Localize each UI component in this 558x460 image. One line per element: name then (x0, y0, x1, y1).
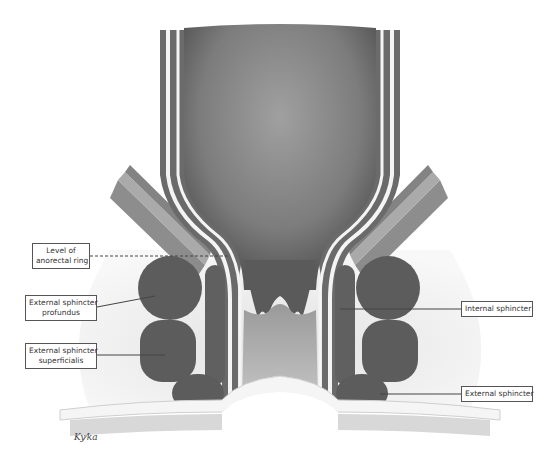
ext-profundus-right (356, 256, 420, 320)
artist-signature: Ky⁄ka (73, 432, 98, 442)
label-ext-sphincter-superficialis: External sphincter superficialis (25, 343, 97, 369)
label-ext-sphincter-profundus: External sphincter profundus (25, 295, 97, 321)
label-text: Level of (36, 246, 86, 256)
internal-sphincter-right (335, 265, 355, 385)
label-external-sphincter: External sphincter (461, 386, 533, 402)
label-text: External sphincter (29, 298, 93, 308)
anatomy-figure: Ky⁄ka Level of anorectal ring External s… (0, 0, 558, 460)
label-text: Internal sphincter (465, 304, 529, 314)
ext-superficialis-right (362, 320, 418, 382)
label-anorectal-ring: Level of anorectal ring (32, 243, 90, 269)
label-text: External sphincter (465, 389, 529, 399)
ext-superficialis-left (140, 320, 196, 382)
ext-profundus-left (138, 256, 202, 320)
label-text: superficialis (29, 356, 93, 366)
internal-sphincter-left (205, 265, 225, 385)
label-internal-sphincter: Internal sphincter (461, 301, 533, 317)
label-text: profundus (29, 308, 93, 318)
label-text: anorectal ring (36, 256, 86, 266)
label-text: External sphincter (29, 346, 93, 356)
